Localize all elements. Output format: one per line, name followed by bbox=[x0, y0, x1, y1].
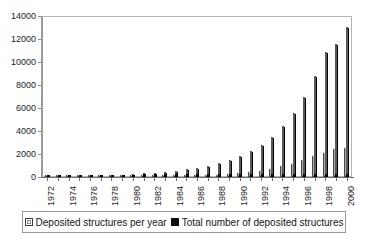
bar-total bbox=[111, 175, 114, 177]
bar-total bbox=[282, 127, 285, 177]
x-label-slot: 1974 bbox=[63, 182, 74, 208]
bar-total bbox=[218, 164, 221, 177]
bar-total bbox=[175, 172, 178, 177]
bar-group bbox=[53, 16, 64, 177]
bar-total bbox=[207, 167, 210, 177]
bar-total bbox=[164, 173, 167, 177]
x-label-slot bbox=[309, 182, 320, 208]
bar-group bbox=[299, 16, 310, 177]
bar-total bbox=[122, 175, 125, 177]
y-tick-label: 2000 bbox=[16, 150, 36, 159]
x-label-slot bbox=[245, 182, 256, 208]
bar-total bbox=[79, 175, 82, 177]
x-label-slot: 1972 bbox=[42, 182, 53, 208]
x-label-slot bbox=[202, 182, 213, 208]
bar-total bbox=[271, 138, 274, 177]
bar-group bbox=[138, 16, 149, 177]
bar-total bbox=[196, 169, 199, 177]
x-axis-labels: 1972197419761978198019821984198619881990… bbox=[42, 182, 352, 208]
x-label-slot bbox=[138, 182, 149, 208]
bar-group bbox=[63, 16, 74, 177]
bar-group bbox=[160, 16, 171, 177]
bar-total bbox=[154, 174, 157, 177]
bar-group bbox=[170, 16, 181, 177]
bar-group bbox=[85, 16, 96, 177]
y-tick-label: 4000 bbox=[16, 127, 36, 136]
bar-total bbox=[229, 161, 232, 177]
y-tick-label: 14000 bbox=[11, 12, 36, 21]
bar-group bbox=[42, 16, 53, 177]
bar-total bbox=[90, 175, 93, 177]
bar-total bbox=[47, 175, 50, 177]
bar-group bbox=[309, 16, 320, 177]
x-label-slot: 1980 bbox=[128, 182, 139, 208]
x-label-slot: 1998 bbox=[320, 182, 331, 208]
black-square-icon bbox=[171, 218, 179, 226]
legend-item-per-year: Deposited structures per year bbox=[25, 217, 167, 228]
x-label-slot bbox=[95, 182, 106, 208]
bar-total bbox=[325, 53, 328, 177]
bars-container bbox=[42, 16, 352, 177]
bar-total bbox=[100, 175, 103, 177]
bar-total bbox=[335, 45, 338, 177]
bar-group bbox=[213, 16, 224, 177]
bar-group bbox=[245, 16, 256, 177]
bar-total bbox=[143, 174, 146, 177]
x-label-slot bbox=[181, 182, 192, 208]
bar-group bbox=[331, 16, 342, 177]
bar-total bbox=[68, 175, 71, 177]
legend-label-per-year: Deposited structures per year bbox=[36, 217, 167, 228]
y-tick-label: 12000 bbox=[11, 35, 36, 44]
bar-group bbox=[277, 16, 288, 177]
x-label-slot bbox=[288, 182, 299, 208]
bar-group bbox=[320, 16, 331, 177]
bar-total bbox=[346, 28, 349, 178]
x-label-slot bbox=[160, 182, 171, 208]
bar-group bbox=[202, 16, 213, 177]
x-label-slot: 1978 bbox=[106, 182, 117, 208]
x-tick-label: 2000 bbox=[347, 186, 356, 206]
bar-total bbox=[132, 175, 135, 177]
chart-legend: Deposited structures per year Total numb… bbox=[22, 211, 346, 233]
bar-group bbox=[224, 16, 235, 177]
bar-total bbox=[250, 152, 253, 177]
x-label-slot bbox=[224, 182, 235, 208]
y-axis: 14000120001000080006000400020000 bbox=[0, 0, 42, 190]
bar-group bbox=[128, 16, 139, 177]
x-label-slot bbox=[53, 182, 64, 208]
legend-label-total: Total number of deposited structures bbox=[182, 217, 344, 228]
x-label-slot: 1988 bbox=[213, 182, 224, 208]
x-label-slot: 1984 bbox=[170, 182, 181, 208]
bar-group bbox=[149, 16, 160, 177]
y-tick-label: 6000 bbox=[16, 104, 36, 113]
bar-group bbox=[266, 16, 277, 177]
y-tick-label: 0 bbox=[31, 173, 36, 182]
bar-total bbox=[293, 114, 296, 177]
x-label-slot bbox=[266, 182, 277, 208]
bar-total bbox=[58, 175, 61, 177]
x-label-slot: 1986 bbox=[192, 182, 203, 208]
bar-chart: 14000120001000080006000400020000 1972197… bbox=[0, 0, 366, 241]
bar-group bbox=[234, 16, 245, 177]
x-label-slot bbox=[117, 182, 128, 208]
y-tick-label: 8000 bbox=[16, 81, 36, 90]
gray-square-icon bbox=[25, 218, 33, 226]
x-label-slot bbox=[74, 182, 85, 208]
bar-total bbox=[186, 170, 189, 177]
x-label-slot bbox=[331, 182, 342, 208]
bar-group bbox=[288, 16, 299, 177]
bar-group bbox=[256, 16, 267, 177]
bar-total bbox=[261, 146, 264, 177]
bar-total bbox=[303, 98, 306, 177]
x-label-slot: 1982 bbox=[149, 182, 160, 208]
x-label-slot: 1976 bbox=[85, 182, 96, 208]
x-label-slot: 1996 bbox=[299, 182, 310, 208]
x-label-slot: 1992 bbox=[256, 182, 267, 208]
bar-group bbox=[341, 16, 352, 177]
legend-item-total: Total number of deposited structures bbox=[171, 217, 344, 228]
x-label-slot: 1994 bbox=[277, 182, 288, 208]
x-label-slot: 2000 bbox=[341, 182, 352, 208]
bar-group bbox=[117, 16, 128, 177]
bar-group bbox=[181, 16, 192, 177]
x-label-slot: 1990 bbox=[234, 182, 245, 208]
